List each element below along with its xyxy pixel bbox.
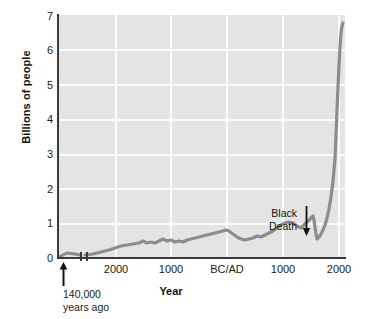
x-tick-2000ad: 2000 [327, 263, 351, 275]
y-tick-1: 1 [36, 217, 53, 229]
y-tick-2: 2 [36, 183, 53, 195]
origin-annotation-arrow-icon [59, 262, 68, 286]
black-death-line2: Death [269, 220, 297, 233]
y-tick-6: 6 [36, 44, 53, 56]
x-axis-title: Year [159, 285, 182, 297]
x-tick-2000bc: 2000 [104, 263, 128, 275]
black-death-annotation-label: Black Death [269, 207, 297, 232]
y-axis-line [57, 14, 59, 259]
x-tick-1000bc: 1000 [159, 263, 183, 275]
x-tick-bcad: BC/AD [210, 263, 244, 275]
y-tick-4: 4 [36, 113, 53, 125]
black-death-line1: Black [269, 207, 297, 220]
y-tick-5: 5 [36, 79, 53, 91]
y-axis-title: Billions of people [20, 27, 32, 167]
x-tick-1000ad: 1000 [271, 263, 295, 275]
y-tick-3: 3 [36, 148, 53, 160]
population-growth-chart: Billions of people 7 6 5 4 3 2 1 0 [0, 0, 371, 319]
axis-break-mark-right [86, 252, 88, 261]
black-death-annotation-arrow-icon [301, 206, 312, 236]
y-tick-7: 7 [36, 10, 53, 22]
x-axis-line [57, 257, 346, 259]
x-axis-tick-labels: 2000 1000 BC/AD 1000 2000 [0, 263, 371, 279]
axis-break-mark-left [80, 252, 82, 261]
